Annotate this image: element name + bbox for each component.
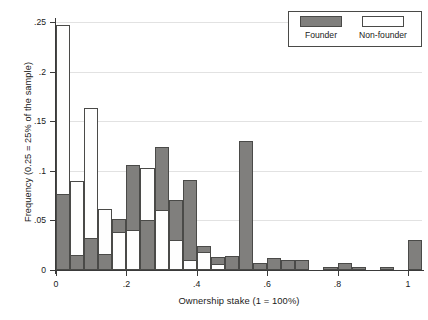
- y-tick-mark: [50, 121, 55, 122]
- legend-item-nonfounder: Non-founder: [351, 16, 415, 40]
- x-tick-label: .2: [106, 279, 146, 289]
- bar-non-founder: [155, 210, 169, 270]
- x-axis-title: Ownership stake (1 = 100%): [56, 295, 422, 306]
- y-axis-title: Frequency (0.25 = 25% of the sample): [23, 17, 33, 267]
- bar-founder: [267, 258, 281, 270]
- x-tick-mark: [267, 271, 268, 276]
- bar-founder: [70, 255, 84, 270]
- bar-non-founder: [211, 264, 225, 270]
- x-tick-mark: [338, 271, 339, 276]
- legend-item-founder: Founder: [295, 16, 347, 40]
- bar-founder: [140, 220, 154, 270]
- x-axis-line: [52, 270, 424, 271]
- histogram-figure: Frequency (0.25 = 25% of the sample) 0.0…: [0, 0, 428, 320]
- bars-container: [56, 22, 422, 270]
- bar-founder: [408, 240, 422, 270]
- y-tick-label: .05: [8, 215, 46, 225]
- bar-founder: [380, 267, 394, 270]
- bar-non-founder: [112, 232, 126, 270]
- y-tick-mark: [50, 22, 55, 23]
- y-tick-mark: [50, 220, 55, 221]
- bar-founder: [84, 238, 98, 270]
- y-tick-label: .2: [8, 67, 46, 77]
- bar-non-founder: [126, 230, 140, 270]
- x-tick-label: .6: [247, 279, 287, 289]
- bar-founder: [253, 263, 267, 270]
- y-tick-mark: [50, 171, 55, 172]
- chart-legend: Founder Non-founder: [288, 11, 422, 47]
- y-tick-label: .15: [8, 116, 46, 126]
- x-tick-mark: [126, 271, 127, 276]
- legend-swatch-founder: [300, 16, 342, 27]
- x-tick-mark: [197, 271, 198, 276]
- legend-swatch-nonfounder: [362, 16, 404, 27]
- legend-label-nonfounder: Non-founder: [351, 30, 415, 40]
- y-tick-label: 0: [8, 265, 46, 275]
- bar-founder: [338, 263, 352, 270]
- bar-founder: [183, 180, 197, 270]
- y-tick-mark: [50, 72, 55, 73]
- bar-non-founder: [183, 260, 197, 270]
- bar-founder: [295, 260, 309, 270]
- bar-founder: [352, 267, 366, 270]
- bar-founder: [281, 260, 295, 270]
- x-tick-mark: [408, 271, 409, 276]
- bar-non-founder: [169, 240, 183, 270]
- bar-founder: [239, 141, 253, 270]
- plot-area: [56, 22, 422, 270]
- x-tick-mark: [56, 271, 57, 276]
- bar-founder: [56, 194, 70, 270]
- x-tick-label: .4: [177, 279, 217, 289]
- x-tick-label: 0: [36, 279, 76, 289]
- x-tick-label: .8: [318, 279, 358, 289]
- y-tick-label: .25: [8, 17, 46, 27]
- legend-label-founder: Founder: [295, 30, 347, 40]
- bar-non-founder: [197, 252, 211, 270]
- y-tick-mark: [50, 270, 55, 271]
- bar-founder: [98, 254, 112, 270]
- bar-founder: [225, 256, 239, 270]
- bar-founder: [323, 267, 337, 270]
- y-tick-label: .1: [8, 166, 46, 176]
- x-tick-label: 1: [388, 279, 428, 289]
